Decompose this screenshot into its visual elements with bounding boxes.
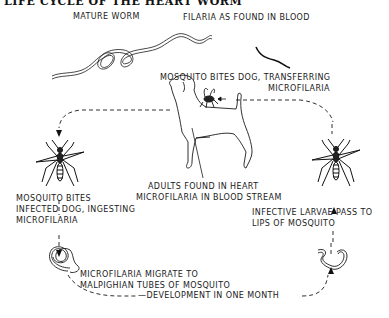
filaria-icon — [256, 47, 290, 68]
mosquito-right-icon — [312, 139, 360, 186]
heartworm-life-cycle-diagram: LIFE CYCLE OF THE HEART WORM — [0, 0, 389, 318]
microfilaria-coiled-icon — [49, 247, 79, 273]
arrow-down-icon — [56, 130, 62, 137]
infective-larva-icon — [318, 249, 347, 269]
label-mosquito-bites-dog-1: MOSQUITO BITES DOG, TRANSFERRING — [160, 73, 330, 83]
label-infective-larvae-2: LIPS OF MOSQUITO — [252, 219, 335, 229]
label-filaria-blood: FILARIA AS FOUND IN BLOOD — [183, 13, 310, 23]
mosquito-left-icon — [36, 140, 84, 186]
label-mosquito-bites-infected-2: INFECTED DOG, INGESTING — [16, 205, 135, 215]
arrow-down-icon — [56, 250, 62, 257]
label-adults-heart-1: ADULTS FOUND IN HEART — [148, 182, 259, 192]
label-mosquito-bites-infected-1: MOSQUITO BITES — [16, 194, 91, 204]
label-mosquito-bites-dog-2: MICROFILARIA — [268, 84, 330, 94]
heart-pointer-line — [192, 128, 203, 178]
label-mosquito-bites-infected-3: MICROFILARIA — [16, 216, 78, 226]
label-infective-larvae-1: INFECTIVE LARVAE PASS TO — [252, 208, 372, 218]
mosquito-on-dog-icon — [200, 88, 226, 108]
label-migrate-2: MALPIGHIAN TUBES OF MOSQUITO — [80, 281, 230, 291]
label-mature-worm: MATURE WORM — [73, 12, 140, 22]
label-development: —DEVELOPMENT IN ONE MONTH — [138, 291, 279, 301]
label-adults-heart-2: MICROFILARIA IN BLOOD STREAM — [136, 193, 282, 203]
dog-icon — [170, 75, 252, 168]
label-migrate-1: MICROFILARIA MIGRATE TO — [80, 270, 198, 280]
